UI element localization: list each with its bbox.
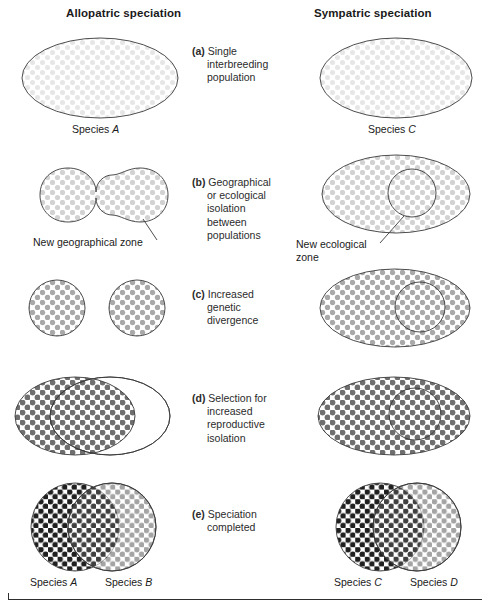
species-label-bottom-d-name: D [450, 576, 458, 588]
caption-stage-a-label: (a) [192, 45, 205, 57]
annotation-new-ecological-zone-line-1: New ecological [296, 238, 367, 250]
annotation-new-ecological-zone-line-2: zone [296, 251, 319, 263]
caption-stage-b: (b) Geographical or ecological isolation… [192, 176, 302, 242]
stage-d-allopatric-population-2 [50, 377, 170, 455]
caption-stage-e-line-1: Speciation [208, 508, 257, 520]
stage-a-sympatric-population [320, 38, 472, 118]
caption-stage-a-line-2: interbreeding [207, 58, 302, 71]
caption-stage-b-line-1: Geographical [208, 176, 270, 188]
caption-stage-e-line-2: completed [207, 521, 302, 534]
stage-b-sympatric-population [322, 155, 470, 233]
caption-stage-e-label: (e) [192, 508, 205, 520]
caption-stage-b-line-5: populations [207, 229, 302, 242]
caption-stage-d-line-2: increased [207, 405, 302, 418]
species-label-bottom-b-text: Species [105, 576, 142, 588]
species-label-bottom-c: Species C [334, 576, 382, 588]
annotation-new-ecological-zone: New ecological zone [296, 238, 367, 263]
species-label-bottom-c-text: Species [334, 576, 371, 588]
stage-a-allopatric-population [22, 38, 178, 118]
species-label-bottom-a: Species A [30, 576, 77, 588]
caption-stage-d-label: (d) [192, 392, 205, 404]
species-label-top-right-name: C [408, 123, 416, 135]
caption-stage-c: (c) Increased genetic divergence [192, 288, 302, 328]
footer-rule [8, 599, 482, 600]
species-label-top-right-text: Species [368, 123, 405, 135]
caption-stage-d-line-3: reproductive [207, 418, 302, 431]
caption-stage-a-line-1: Single [208, 45, 237, 57]
annotation-new-geographical-zone: New geographical zone [33, 236, 143, 249]
caption-stage-d-line-1: Selection for [208, 392, 266, 404]
caption-stage-c-line-1: Increased [208, 288, 254, 300]
stage-d-sympatric-population [318, 377, 470, 455]
species-label-top-left: Species A [72, 123, 119, 135]
species-label-top-left-name: A [112, 123, 119, 135]
caption-stage-c-line-2: genetic [207, 301, 302, 314]
species-label-top-right: Species C [368, 123, 416, 135]
caption-stage-a: (a) Single interbreeding population [192, 45, 302, 85]
caption-stage-b-line-2: or ecological [207, 189, 302, 202]
caption-stage-b-label: (b) [192, 176, 205, 188]
caption-stage-b-line-4: between [207, 216, 302, 229]
species-label-bottom-d: Species D [410, 576, 458, 588]
stage-b-allopatric-leader-line [143, 219, 157, 240]
species-label-top-left-text: Species [72, 123, 109, 135]
caption-stage-a-line-3: population [207, 71, 302, 84]
species-label-bottom-a-text: Species [30, 576, 67, 588]
caption-stage-e: (e) Speciation completed [192, 508, 302, 534]
caption-stage-c-label: (c) [192, 288, 205, 300]
stage-c-allopatric-population-1 [29, 280, 85, 336]
species-label-bottom-a-name: A [70, 576, 77, 588]
stage-b-allopatric-dumbbell [40, 168, 168, 222]
species-label-bottom-d-text: Species [410, 576, 447, 588]
caption-stage-d-line-4: isolation [207, 432, 302, 445]
species-label-bottom-b-name: B [145, 576, 152, 588]
stage-c-allopatric-population-2 [109, 280, 165, 336]
species-label-bottom-c-name: C [374, 576, 382, 588]
caption-stage-b-line-3: isolation [207, 202, 302, 215]
caption-stage-c-line-3: divergence [207, 314, 302, 327]
caption-stage-d: (d) Selection for increased reproductive… [192, 392, 302, 445]
species-label-bottom-b: Species B [105, 576, 152, 588]
